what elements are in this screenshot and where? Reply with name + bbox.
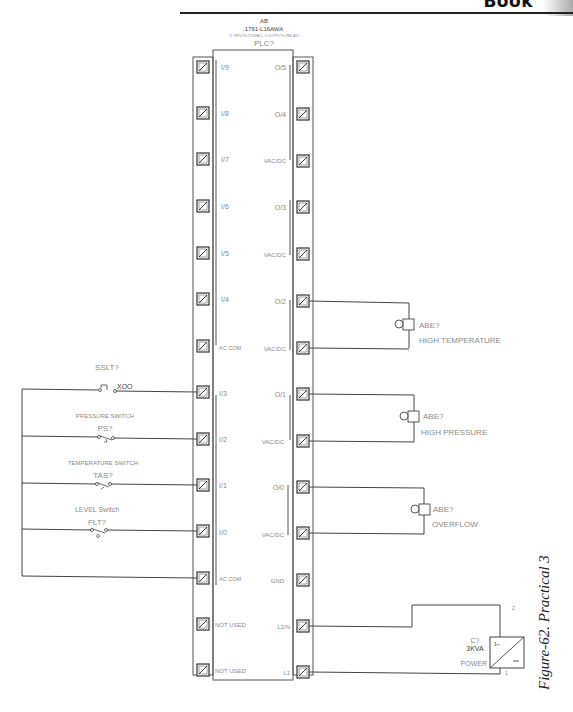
- row-left-label: I/5: [221, 250, 229, 257]
- row-right-label: O/0: [273, 484, 284, 491]
- alarm-light-icon: [395, 320, 403, 328]
- row-right-label: O/5: [275, 64, 286, 71]
- terminal-icon: [297, 342, 309, 354]
- input-title: SSLT?: [95, 363, 119, 372]
- schematic-diagram: AB 1761-L16AWA 11 INPUTS (120VAC), 5 OUT…: [0, 0, 573, 712]
- row-right-label: O/1: [275, 391, 286, 398]
- row-left-label: I/8: [221, 110, 229, 117]
- alarm-light-icon: [411, 505, 419, 513]
- power-supply: 1~ == C? 3KVA POWER 2 1: [461, 605, 524, 676]
- power-bottom-pin: 1: [505, 670, 508, 676]
- alarm-box-icon: [403, 319, 414, 330]
- row-left-label: I/4: [221, 296, 229, 303]
- input-contact: XOO: [117, 383, 133, 390]
- input-tag: PS?: [97, 424, 113, 433]
- plc-row: NOT USED L2/N: [197, 618, 309, 632]
- power-rating: 3KVA: [466, 645, 484, 652]
- terminal-icon: [297, 666, 309, 678]
- terminal-icon: [197, 153, 209, 165]
- alarm-box-icon: [419, 504, 430, 515]
- row-left-label: I/2: [219, 436, 227, 443]
- row-right-label: VAC/DC: [264, 346, 287, 352]
- plc-row: I/0 VAC/DC: [197, 525, 309, 539]
- plc-row: I/1 O/0: [197, 479, 309, 493]
- output-label: HIGH TEMPERATURE: [419, 336, 501, 345]
- terminal-icon: [197, 433, 209, 445]
- plc-subtitle: 11 INPUTS (120VAC), 5 OUTPUTS (RELAY): [229, 34, 299, 38]
- terminal-icon: [297, 620, 309, 632]
- power-tag: C?: [471, 637, 480, 644]
- input-tag: TAS?: [93, 471, 113, 480]
- plc-module: [193, 50, 313, 680]
- row-left-label: I/6: [221, 203, 229, 210]
- ac-symbol: 1~: [494, 641, 500, 647]
- input-level-switch: LEVEL Switch FLT?: [75, 506, 119, 538]
- row-right-label: VAC/DC: [262, 532, 285, 538]
- plc-tag: PLC?: [254, 39, 275, 48]
- output-tag: ABE?: [433, 505, 454, 514]
- output-label: OVERFLOW: [432, 520, 478, 529]
- terminal-icon: [197, 61, 209, 73]
- row-left-label: I/9: [221, 64, 229, 71]
- terminal-icon: [297, 527, 309, 539]
- plc-row: I/2 VAC/DC: [197, 433, 309, 447]
- terminal-icon: [297, 388, 309, 400]
- plc-row: NOT USED L1: [197, 664, 309, 678]
- row-right-label: VAC/DC: [262, 439, 285, 445]
- terminal-icon: [297, 295, 309, 307]
- terminal-icon: [197, 572, 209, 584]
- terminal-icon: [197, 618, 209, 630]
- terminal-icon: [297, 201, 309, 213]
- row-right-label: O/2: [275, 298, 286, 305]
- plc-row: I/7 VAC/DC: [197, 153, 309, 167]
- terminal-icon: [297, 481, 309, 493]
- plc-row: AC COM GND: [197, 572, 309, 586]
- row-right-label: VAC/DC: [264, 158, 287, 164]
- plc-row: I/3 O/1: [197, 386, 309, 400]
- row-right-label: GND: [271, 578, 285, 584]
- input-title: TEMPERATURE SWITCH: [68, 460, 138, 466]
- row-right-label: O/3: [275, 204, 286, 211]
- plc-row: I/5 VAC/DC: [197, 247, 309, 260]
- selector-switch-icon: [101, 385, 107, 390]
- input-title: LEVEL Switch: [75, 506, 119, 513]
- output-alarm-high-pressure: ABE? HIGH PRESSURE: [400, 411, 487, 437]
- terminal-icon: [197, 340, 209, 352]
- output-alarm-high-temperature: ABE? HIGH TEMPERATURE: [395, 319, 501, 345]
- output-tag: ABE?: [419, 321, 440, 330]
- row-left-label: NOT USED: [215, 622, 247, 628]
- power-top-pin: 2: [512, 605, 515, 611]
- terminal-icon: [197, 247, 209, 259]
- plc-row: I/8 O/4: [197, 107, 309, 120]
- input-title: PRESSURE SWITCH: [76, 413, 134, 419]
- temperature-switch-icon: [98, 483, 109, 487]
- row-left-label: I/3: [219, 390, 227, 397]
- row-right-label: L1: [283, 670, 290, 676]
- terminal-icon: [197, 200, 209, 212]
- row-left-label: AC COM: [219, 576, 241, 582]
- row-right-label: O/4: [275, 111, 286, 118]
- row-left-label: I/7: [221, 156, 229, 163]
- row-left-label: I/1: [219, 482, 227, 489]
- terminal-icon: [197, 664, 209, 676]
- terminal-icon: [197, 479, 209, 491]
- terminal-icon: [297, 61, 309, 73]
- row-right-label: VAC/DC: [264, 252, 287, 258]
- plc-row: I/9 O/5: [197, 61, 309, 73]
- row-left-label: AC COM: [219, 345, 241, 351]
- terminal-icon: [297, 155, 309, 167]
- plc-row: I/6 O/3: [197, 200, 309, 213]
- row-left-label: I/0: [219, 529, 227, 536]
- output-tag: ABE?: [423, 412, 444, 421]
- row-right-label: L2/N: [277, 624, 290, 630]
- input-tag: FLT?: [88, 518, 107, 527]
- terminal-icon: [297, 574, 309, 586]
- terminal-icon: [297, 248, 309, 260]
- terminal-icon: [197, 107, 209, 119]
- dc-symbol: ==: [513, 658, 519, 664]
- power-label: POWER: [461, 660, 487, 667]
- plc-vendor: AB: [260, 18, 268, 24]
- terminal-icon: [197, 386, 209, 398]
- terminal-icon: [197, 293, 209, 305]
- output-label: HIGH PRESSURE: [421, 428, 487, 437]
